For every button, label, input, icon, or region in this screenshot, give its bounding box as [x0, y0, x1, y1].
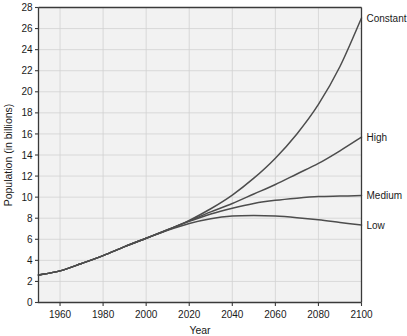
x-tick-label: 2100: [350, 309, 373, 320]
y-tick-label: 22: [21, 65, 33, 76]
x-tick-label: 2080: [307, 309, 330, 320]
y-axis-tick-labels: 0246810121416182022242628: [21, 2, 33, 308]
y-axis-title: Population (in billions): [2, 104, 14, 207]
y-tick-label: 0: [27, 297, 33, 308]
y-tick-label: 8: [27, 213, 33, 224]
x-tick-label: 2000: [135, 309, 158, 320]
y-tick-label: 10: [21, 192, 33, 203]
y-tick-label: 14: [21, 150, 33, 161]
x-tick-label: 2060: [264, 309, 287, 320]
x-tick-label: 2040: [221, 309, 244, 320]
y-tick-label: 6: [27, 234, 33, 245]
x-axis-tick-labels: 19601980200020202040206020802100: [49, 309, 373, 320]
y-tick-label: 28: [21, 2, 33, 13]
y-tick-label: 4: [27, 255, 33, 266]
population-projection-chart: 0246810121416182022242628 19601980200020…: [0, 0, 407, 336]
x-tick-label: 2020: [178, 309, 201, 320]
y-tick-label: 18: [21, 107, 33, 118]
series-label-low: Low: [367, 220, 386, 231]
y-tick-label: 26: [21, 23, 33, 34]
series-label-constant: Constant: [367, 13, 407, 24]
x-tick-label: 1960: [49, 309, 72, 320]
y-tick-label: 24: [21, 44, 33, 55]
x-tick-label: 1980: [92, 309, 115, 320]
x-axis-title: Year: [189, 324, 211, 336]
y-tick-label: 12: [21, 171, 33, 182]
series-label-high: High: [367, 132, 388, 143]
chart-canvas: 0246810121416182022242628 19601980200020…: [0, 0, 407, 336]
y-tick-label: 20: [21, 86, 33, 97]
y-tick-label: 16: [21, 129, 33, 140]
y-tick-label: 2: [27, 276, 33, 287]
series-end-labels: ConstantHighMediumLow: [367, 13, 407, 231]
series-label-medium: Medium: [367, 190, 403, 201]
